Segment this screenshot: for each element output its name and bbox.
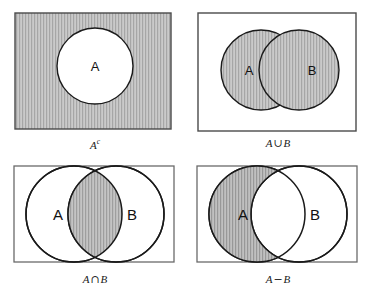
- caption-complement: Ac: [10, 138, 180, 151]
- intersection-operator-icon: ∩: [89, 273, 100, 286]
- set-label-b: B: [310, 206, 320, 223]
- intersection-diagram: A B: [10, 158, 180, 274]
- caption-superscript: c: [97, 137, 100, 146]
- complement-diagram: A: [10, 8, 180, 138]
- set-label-a: A: [91, 59, 100, 74]
- minus-operator-icon: −: [272, 273, 283, 286]
- caption-difference: A−B: [193, 274, 363, 285]
- caption-right-operand: B: [284, 137, 291, 149]
- set-label-a: A: [238, 206, 248, 223]
- panel-union: A B A∪B: [193, 8, 363, 156]
- caption-right-operand: B: [101, 273, 108, 285]
- set-label-b: B: [308, 63, 317, 78]
- caption-union: A∪B: [193, 138, 363, 149]
- union-operator-icon: ∪: [272, 137, 283, 150]
- caption-right-operand: B: [284, 273, 291, 285]
- caption-base: A: [90, 139, 97, 151]
- panel-complement: A Ac: [10, 8, 180, 156]
- circle-b: [259, 30, 339, 110]
- union-diagram: A B: [193, 8, 363, 138]
- caption-intersection: A∩B: [10, 274, 180, 285]
- panel-difference: A B A−B: [193, 158, 363, 292]
- panel-intersection: A B A∩B: [10, 158, 180, 292]
- venn-diagram-figure: A Ac A B A∪B: [0, 0, 373, 295]
- difference-diagram: A B: [193, 158, 363, 274]
- set-label-a: A: [53, 206, 63, 223]
- set-label-a: A: [245, 63, 254, 78]
- set-label-b: B: [127, 206, 137, 223]
